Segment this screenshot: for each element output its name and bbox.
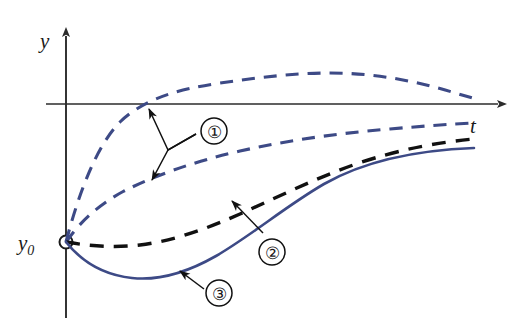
- callout-3-label: ③: [212, 285, 227, 304]
- callout-2-label: ②: [265, 244, 280, 263]
- callout-1-leader-lower: [152, 134, 196, 180]
- curve-overshoot-dashed-blue: [66, 73, 476, 242]
- callout-1-leader-upper: [149, 109, 196, 150]
- callout-3-leader: [180, 271, 204, 289]
- response-curves-figure: y t y0 ① ② ③: [0, 0, 532, 323]
- initial-value-subscript: 0: [27, 243, 34, 258]
- figure-canvas: y t y0 ① ② ③: [0, 0, 532, 323]
- t-axis-label: t: [470, 114, 477, 138]
- y-axis-label: y: [38, 29, 50, 53]
- initial-value-symbol: y: [16, 231, 28, 255]
- curve-slow-dashed-blue: [66, 123, 474, 242]
- callout-1-label: ①: [207, 123, 222, 142]
- initial-value-label: y0: [16, 231, 34, 258]
